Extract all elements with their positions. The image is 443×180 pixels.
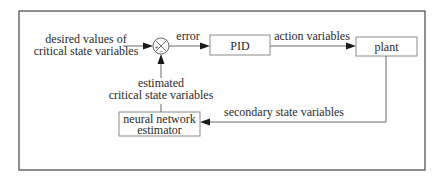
pid-label: PID xyxy=(230,39,250,53)
arrowhead-icon xyxy=(200,119,210,126)
action-label: action variables xyxy=(274,29,350,43)
arrowhead-icon xyxy=(158,54,165,64)
arrowhead-icon xyxy=(200,43,210,50)
arrowhead-icon xyxy=(346,43,356,50)
summing-junction: + − xyxy=(153,38,169,54)
action-arrow xyxy=(270,43,356,50)
estimated-label-line2: critical state variables xyxy=(109,88,214,102)
estimator-label-line2: estimator xyxy=(137,123,182,137)
input-label-line2: critical state variables xyxy=(34,44,139,58)
diagram-canvas: desired values of critical state variabl… xyxy=(0,0,443,180)
plant-label: plant xyxy=(375,40,400,54)
arrowhead-icon xyxy=(143,43,153,50)
error-arrow xyxy=(169,43,210,50)
secondary-label: secondary state variables xyxy=(224,105,344,119)
error-label: error xyxy=(176,29,199,43)
minus-sign: − xyxy=(159,48,163,54)
